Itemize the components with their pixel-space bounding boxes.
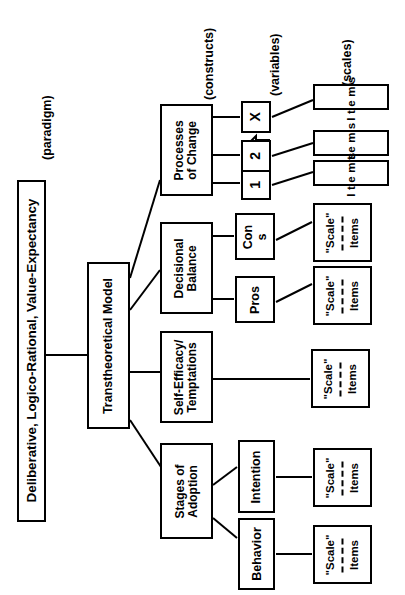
scale-divider-behavior bbox=[342, 538, 344, 572]
scale-items-self-efficacy: Items bbox=[347, 363, 359, 393]
scale-box-cons: "Scale" Items bbox=[313, 203, 372, 262]
scale-divider-pros bbox=[342, 279, 344, 313]
scale-stack-pros: "Scale" Items bbox=[325, 275, 361, 316]
scale-box-self-efficacy: "Scale" Items bbox=[311, 349, 370, 408]
scale-title-cons: "Scale" bbox=[325, 212, 337, 253]
items-label-poc-x: Items bbox=[345, 73, 357, 121]
items-label-poc-1: Items bbox=[345, 149, 357, 197]
scale-box-intention: "Scale" Items bbox=[313, 448, 372, 507]
scale-items-behavior: Items bbox=[349, 539, 361, 569]
scale-items-intention: Items bbox=[349, 462, 361, 492]
scale-stack-self-efficacy: "Scale" Items bbox=[323, 358, 359, 399]
scale-stack-intention: "Scale" Items bbox=[325, 457, 361, 498]
diagram-canvas: (paradigm) (constructs) (variables) (sca… bbox=[0, 0, 405, 595]
scale-title-behavior: "Scale" bbox=[325, 534, 337, 575]
scale-divider-self-efficacy bbox=[340, 362, 342, 396]
scale-items-cons: Items bbox=[349, 217, 361, 247]
scale-box-behavior: "Scale" Items bbox=[313, 525, 372, 584]
items-box-poc-x: Items bbox=[313, 84, 389, 110]
scale-divider-cons bbox=[342, 216, 344, 250]
scale-stack-behavior: "Scale" Items bbox=[325, 534, 361, 575]
scale-title-self-efficacy: "Scale" bbox=[323, 358, 335, 399]
scale-box-pros: "Scale" Items bbox=[313, 266, 372, 325]
items-box-poc-1: Items bbox=[313, 160, 389, 186]
scale-stack-cons: "Scale" Items bbox=[325, 212, 361, 253]
scale-title-intention: "Scale" bbox=[325, 457, 337, 498]
scale-divider-intention bbox=[342, 461, 344, 495]
scale-items-pros: Items bbox=[349, 280, 361, 310]
scale-title-pros: "Scale" bbox=[325, 275, 337, 316]
